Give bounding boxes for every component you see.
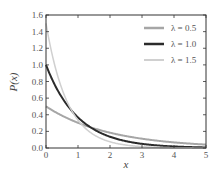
x-tick-label: 1 xyxy=(76,150,81,160)
x-tick-label: 3 xyxy=(140,150,145,160)
y-axis-label: P(x) xyxy=(7,72,20,92)
x-axis-ticks: 012345 xyxy=(44,15,209,160)
y-tick-label: 0.8 xyxy=(32,77,44,87)
y-tick-label: 0.2 xyxy=(32,126,43,136)
plot-frame xyxy=(46,15,206,148)
x-tick-label: 4 xyxy=(172,150,177,160)
legend-label: λ = 1.5 xyxy=(171,55,197,65)
x-tick-label: 2 xyxy=(108,150,113,160)
y-tick-label: 1.2 xyxy=(32,43,43,53)
curve-series-0 xyxy=(46,106,206,144)
legend-label: λ = 0.5 xyxy=(171,23,197,33)
x-axis-label: x xyxy=(123,158,129,170)
x-tick-label: 0 xyxy=(44,150,49,160)
exponential-distribution-chart: 012345 0.00.20.40.60.81.01.21.41.6 x P(x… xyxy=(0,0,219,176)
x-tick-label: 5 xyxy=(204,150,209,160)
y-tick-label: 1.4 xyxy=(32,27,44,37)
y-tick-label: 0.4 xyxy=(32,110,44,120)
legend: λ = 0.5λ = 1.0λ = 1.5 xyxy=(144,23,197,65)
y-tick-label: 0.0 xyxy=(32,143,44,153)
y-tick-label: 1.0 xyxy=(32,60,44,70)
y-tick-label: 1.6 xyxy=(32,10,44,20)
y-tick-label: 0.6 xyxy=(32,93,44,103)
legend-label: λ = 1.0 xyxy=(171,39,197,49)
